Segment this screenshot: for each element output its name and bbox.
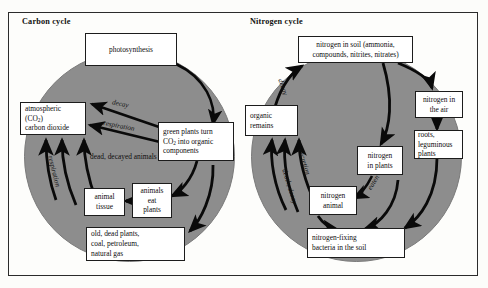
box-nitrogen-fixing-bacteria: nitrogen-fixing bacteria in the soil [307,228,405,258]
atmospheric-line-3: carbon dioxide [25,123,69,133]
animal-tissue-line-1: animal [94,192,114,202]
animals-eat-line-1: animals [141,186,164,196]
box-atmospheric-co2: atmospheric (CO2) carbon dioxide [20,102,86,135]
arrow-respiration-curve-2 [62,140,76,205]
air-line-2: the air [430,105,449,115]
n-animal-line-2: animal [323,201,343,211]
roots-line-2: leguminous [418,140,453,150]
green-plants-co2-prefix: CO [163,137,173,146]
atmospheric-co2-prefix: (CO [25,114,38,123]
green-plants-line-3: components [163,146,199,156]
box-nitrogen-animal: nitrogen animal [309,186,357,215]
atmospheric-co2-suffix: ) [40,114,42,123]
fossil-line-2: coal, petroleum, [91,239,139,249]
soil-line-1: nitrogen in soil (ammonia, [316,40,394,50]
animals-eat-line-2: eat [148,196,157,206]
box-green-plants: green plants turn CO2 into organic compo… [158,122,234,161]
roots-line-1: roots, [418,130,435,140]
label-dead-decayed-animals: dead, decayed animals [90,152,157,162]
green-plants-line-2: CO2 into organic [163,137,213,147]
arrow-to-fossil-fuels [190,165,213,231]
soil-line-2: compounds, nitrites, nitrates) [312,50,398,60]
carbon-cycle-title: Carbon cycle [22,17,71,26]
arrow-soil-to-air [398,63,432,88]
fossil-line-3: natural gas [91,249,123,259]
n-animal-line-1: nitrogen [321,191,346,201]
organic-remains-line-2: remains [250,121,273,131]
bacteria-line-2: bacteria in the soil [312,243,366,253]
animals-eat-line-3: plants [143,205,161,215]
box-photosynthesis-label: photosynthesis [109,45,153,55]
organic-remains-line-1: organic [250,111,272,121]
box-nitrogen-in-air: nitrogen in the air [415,91,463,118]
dead-decayed-line-3: animals [134,152,157,161]
box-animals-eat-plants: animals eat plants [132,183,172,218]
arrow-plants-to-animals [172,161,197,196]
box-animal-tissue: animal tissue [84,188,125,216]
box-roots-leguminous: roots, leguminous plants [414,130,463,159]
dead-decayed-line-2: decayed [108,152,132,161]
box-fossil-fuels: old, dead plants, coal, petroleum, natur… [86,227,185,261]
fossil-line-1: old, dead plants, [91,229,139,239]
animal-tissue-line-2: tissue [96,202,113,212]
atmospheric-line-1: atmospheric [25,104,61,114]
nitrogen-cycle-title: Nitrogen cycle [250,17,303,26]
bacteria-line-1: nitrogen-fixing [312,233,357,243]
atmospheric-line-2: (CO2) [25,114,43,124]
air-line-1: nitrogen in [423,95,455,105]
arrow-soil-to-plants [381,63,390,144]
roots-line-3: plants [418,149,436,159]
n-plants-line-1: nitrogen [368,151,393,161]
dead-decayed-line-1: dead, [90,152,106,161]
box-organic-remains: organic remains [245,105,298,136]
box-photosynthesis: photosynthesis [85,33,177,66]
n-plants-line-2: in plants [367,161,392,171]
box-nitrogen-in-plants: nitrogen in plants [357,146,403,175]
green-plants-co2-suffix: into organic [176,137,213,146]
green-plants-co2-sub: 2 [173,140,176,146]
arrow-roots-to-bacteria [405,158,437,228]
diagram-canvas: Carbon cycle Nitrogen cycle photosynthes… [0,0,488,288]
box-nitrogen-in-soil: nitrogen in soil (ammonia, compounds, ni… [298,36,413,63]
green-plants-line-1: green plants turn [163,127,213,137]
arrow-photosynthesis-to-plants [176,64,214,124]
